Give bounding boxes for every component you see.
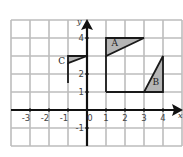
x-tick-label: 4 xyxy=(160,113,165,123)
y-tick-label: -1 xyxy=(76,123,84,133)
x-tick-label: 1 xyxy=(103,113,108,123)
y-tick-label: 1 xyxy=(79,87,84,97)
y-axis-label: y xyxy=(76,17,82,26)
shape-label-b: B xyxy=(152,77,159,87)
x-tick-label: -2 xyxy=(41,113,49,123)
shape-label-c: C xyxy=(58,56,65,66)
y-tick-label: 2 xyxy=(79,69,84,79)
x-axis-label: x xyxy=(178,111,183,120)
x-tick-label: -3 xyxy=(22,113,30,123)
y-tick-label: 4 xyxy=(79,33,84,43)
x-tick-label: 2 xyxy=(122,113,127,123)
grid-svg: x y -3-2-101234421-1 A B C xyxy=(0,0,183,157)
shape-label-a: A xyxy=(111,38,119,48)
coordinate-grid-figure: x y -3-2-101234421-1 A B C xyxy=(0,0,183,157)
shape-c xyxy=(68,56,87,63)
x-tick-label: -1 xyxy=(60,113,68,123)
x-tick-label: 0 xyxy=(87,113,92,123)
x-tick-label: 3 xyxy=(141,113,146,123)
